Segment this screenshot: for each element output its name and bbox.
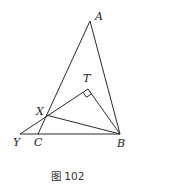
geometry-figure: A T X Y C B 图 102 bbox=[0, 0, 172, 192]
segment-ab bbox=[90, 21, 120, 134]
right-angle-mark bbox=[83, 92, 91, 97]
label-t: T bbox=[83, 72, 92, 85]
segment-yt bbox=[20, 89, 88, 134]
figure-caption: 图 102 bbox=[51, 170, 84, 182]
label-c: C bbox=[34, 136, 43, 149]
point-labels: A T X Y C B bbox=[13, 10, 125, 150]
label-b: B bbox=[116, 137, 125, 150]
label-y: Y bbox=[13, 136, 22, 149]
figure-segments bbox=[20, 21, 120, 134]
label-x: X bbox=[35, 105, 45, 118]
label-a: A bbox=[94, 10, 103, 23]
